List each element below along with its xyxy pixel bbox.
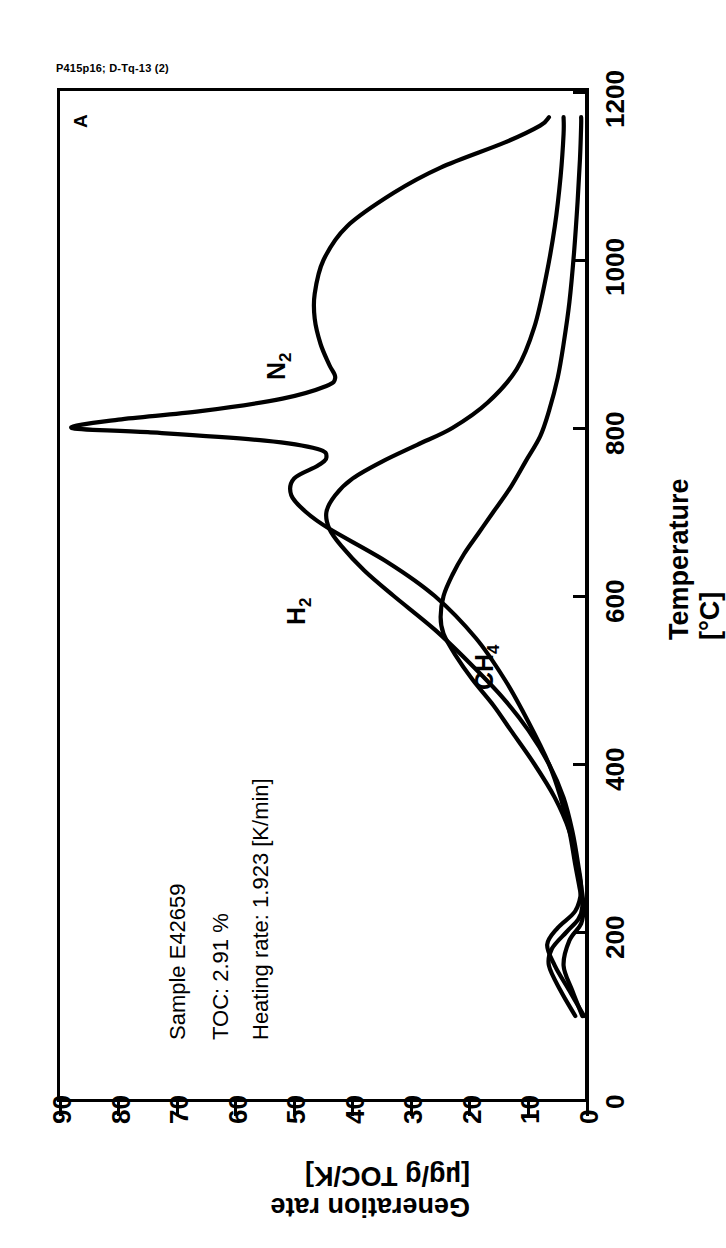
curve-n2: [71, 117, 582, 1016]
curve-ch4: [441, 117, 584, 1016]
